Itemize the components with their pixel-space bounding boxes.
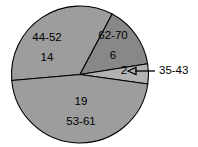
callout-label-text: 35-43 (159, 64, 188, 76)
slice-label-44-52-secondary: 14 (41, 51, 54, 63)
pie-chart-figure: 44-521462-70621953-61 35-43 (0, 0, 198, 147)
pie-chart-canvas: 44-521462-70621953-61 35-43 (0, 0, 198, 147)
slice-label-62-70-secondary: 6 (110, 49, 116, 61)
slice-label-53-61-secondary: 53-61 (66, 115, 95, 127)
slice-label-62-70-primary: 62-70 (98, 29, 127, 41)
slice-label-44-52-primary: 44-52 (32, 31, 61, 43)
slice-label-53-61-primary: 19 (75, 95, 88, 107)
slice-label-35-43-primary: 2 (121, 64, 127, 76)
